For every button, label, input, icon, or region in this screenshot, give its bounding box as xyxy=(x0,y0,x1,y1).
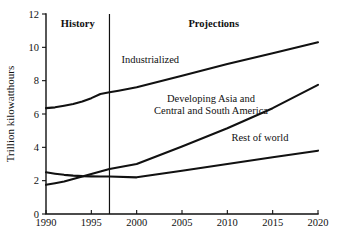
y-axis-title-group: Trillion kilowatthours xyxy=(4,66,16,162)
series-line-2 xyxy=(46,151,318,178)
x-axis-tick-labels: 1990199520002005201020152020 xyxy=(36,217,329,228)
y-tick-label-10: 10 xyxy=(29,42,40,53)
y-axis-tick-labels: 024681012 xyxy=(29,9,40,220)
x-tick-label-2020: 2020 xyxy=(308,217,329,228)
series-labels-group: IndustrializedDeveloping Asia andCentral… xyxy=(121,54,289,143)
y-tick-label-2: 2 xyxy=(34,175,39,186)
y-tick-label-12: 12 xyxy=(29,9,40,20)
y-tick-label-4: 4 xyxy=(34,142,40,153)
x-tick-label-2005: 2005 xyxy=(172,217,193,228)
series-label-2: Rest of world xyxy=(231,132,289,143)
series-label-line: Developing Asia and xyxy=(167,93,256,104)
x-tick-label-2000: 2000 xyxy=(126,217,147,228)
y-tick-label-6: 6 xyxy=(34,109,39,120)
y-axis-title: Trillion kilowatthours xyxy=(4,66,16,162)
series-label-line: Central and South America xyxy=(154,105,268,116)
series-label-0: Industrialized xyxy=(121,54,179,65)
chart-figure: Trillion kilowatthours HistoryProjection… xyxy=(0,0,341,239)
history-label: History xyxy=(61,18,96,29)
y-tick-label-8: 8 xyxy=(34,75,39,86)
series-label-line: Industrialized xyxy=(121,54,179,65)
series-label-line: Rest of world xyxy=(231,132,289,143)
region-labels-group: HistoryProjections xyxy=(61,18,239,29)
y-tick-label-0: 0 xyxy=(34,209,39,220)
energy-consumption-line-chart: Trillion kilowatthours HistoryProjection… xyxy=(0,0,341,239)
x-tick-label-1995: 1995 xyxy=(81,217,102,228)
series-label-1: Developing Asia andCentral and South Ame… xyxy=(154,93,268,116)
x-tick-label-2015: 2015 xyxy=(262,217,283,228)
projections-label: Projections xyxy=(188,18,239,29)
x-tick-label-2010: 2010 xyxy=(217,217,238,228)
